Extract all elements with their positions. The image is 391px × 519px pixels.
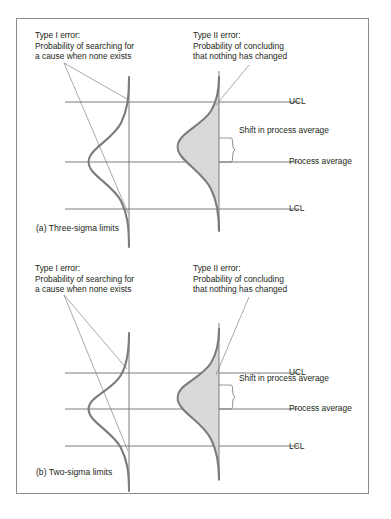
- shift-label-line2: average: [299, 125, 329, 135]
- type-two-error-title: Type II error:: [193, 263, 287, 274]
- type-two-error-note: Type II error: Probability of concluding…: [193, 30, 287, 62]
- type-two-error-line3: that nothing has changed: [193, 284, 287, 295]
- panel-b-caption: (b) Two-sigma limits: [36, 467, 112, 477]
- process-average-label: Process average: [289, 403, 352, 414]
- type-one-error-title: Type I error:: [35, 263, 134, 274]
- lcl-label: LCL: [289, 203, 304, 214]
- panel-three-sigma: Type I error: Probability of searching f…: [17, 19, 370, 257]
- type1-leader-upper: [64, 295, 127, 369]
- shift-label-line1: Shift in process: [239, 125, 296, 135]
- shift-in-process-average-label: Shift in process average: [239, 373, 329, 384]
- type-two-error-line2: Probability of concluding: [193, 41, 287, 52]
- type-two-error-shaded-region: [178, 77, 220, 231]
- type-one-error-line3: a cause when none exists: [35, 284, 134, 295]
- shift-label-line1: Shift in process: [239, 373, 296, 383]
- lcl-label: LCL: [289, 441, 304, 452]
- ucl-label: UCL: [289, 96, 306, 107]
- type-one-error-title: Type I error:: [35, 30, 134, 41]
- type-two-error-line2: Probability of concluding: [193, 274, 287, 285]
- type2-leader: [216, 65, 249, 105]
- process-average-label: Process average: [289, 156, 352, 167]
- type-two-error-note: Type II error: Probability of concluding…: [193, 263, 287, 295]
- shift-in-process-average-label: Shift in process average: [239, 125, 329, 136]
- type-two-error-title: Type II error:: [193, 30, 287, 41]
- shift-brace: [231, 385, 235, 409]
- type2-leader: [216, 297, 249, 375]
- figure-frame: Type I error: Probability of searching f…: [16, 18, 369, 494]
- type1-leader-upper: [64, 63, 127, 99]
- type1-leader-lower: [64, 63, 128, 213]
- panel-a-caption: (a) Three-sigma limits: [36, 223, 119, 233]
- type-one-error-note: Type I error: Probability of searching f…: [35, 263, 134, 295]
- panel-two-sigma: Type I error: Probability of searching f…: [17, 257, 370, 495]
- type-one-error-line2: Probability of searching for: [35, 274, 134, 285]
- shift-brace: [231, 138, 235, 162]
- type-one-error-line3: a cause when none exists: [35, 51, 134, 62]
- ucl-label: UCL: [289, 367, 306, 378]
- type-one-error-note: Type I error: Probability of searching f…: [35, 30, 134, 62]
- type-two-error-line3: that nothing has changed: [193, 51, 287, 62]
- type-one-error-line2: Probability of searching for: [35, 41, 134, 52]
- type-two-error-shaded-region: [178, 329, 220, 479]
